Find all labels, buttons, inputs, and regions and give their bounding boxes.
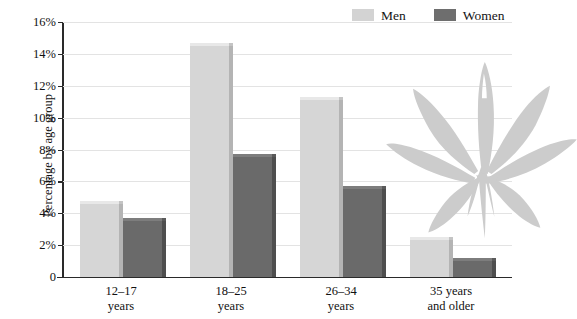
category-label-line: and older: [396, 299, 506, 314]
y-tick-label: 2%: [39, 238, 56, 253]
bar-women-3: [453, 261, 492, 277]
gridline: [63, 54, 512, 55]
y-tick-mark: [58, 245, 63, 246]
plot-area: 02%4%6%8%10%12%14%16%: [63, 22, 512, 277]
bar-men-2: [300, 100, 339, 277]
y-tick-label: 14%: [33, 46, 56, 61]
bar-men-1: [190, 46, 229, 277]
y-tick-mark: [58, 22, 63, 23]
bar-top: [410, 237, 449, 240]
bar-topside: [162, 218, 166, 221]
category-label-line: 35 years: [396, 284, 506, 299]
bar-top: [80, 201, 119, 204]
y-tick-mark: [58, 213, 63, 214]
category-label-line: years: [66, 299, 176, 314]
gridline: [63, 213, 512, 214]
y-tick-mark: [58, 86, 63, 87]
gridline: [63, 86, 512, 87]
bar-face: [410, 240, 449, 277]
bar-women-1: [233, 157, 272, 277]
category-label-line: 26–34: [286, 284, 396, 299]
bar-top: [190, 43, 229, 46]
category-label-line: years: [176, 299, 286, 314]
legend-label-men: Men: [381, 9, 406, 22]
bar-topside: [382, 186, 386, 189]
y-tick-label: 10%: [33, 110, 56, 125]
legend-item-women: Women: [434, 9, 505, 22]
bar-topside: [449, 237, 453, 240]
bar-face: [300, 100, 339, 277]
cannabis-leaf-icon: [385, 60, 577, 242]
y-tick-mark: [58, 181, 63, 182]
y-tick-label: 8%: [39, 142, 56, 157]
bar-face: [453, 261, 492, 277]
bar-top: [300, 97, 339, 100]
bar-topside: [272, 154, 276, 157]
legend-item-men: Men: [352, 9, 406, 22]
bar-face: [190, 46, 229, 277]
bar-face: [343, 189, 382, 277]
bar-topside: [119, 201, 123, 204]
bar-side: [272, 157, 276, 277]
category-label-line: 18–25: [176, 284, 286, 299]
bar-side: [382, 189, 386, 277]
y-tick-mark: [58, 118, 63, 119]
bar-topside: [229, 43, 233, 46]
gridline: [63, 181, 512, 182]
y-tick-label: 4%: [39, 206, 56, 221]
category-label-line: years: [286, 299, 396, 314]
bar-topside: [492, 258, 496, 261]
category-label-3: 35 yearsand older: [396, 284, 506, 314]
legend-swatch-women: [434, 9, 456, 21]
bar-top: [453, 258, 492, 261]
y-tick-mark: [58, 54, 63, 55]
y-tick-label: 16%: [33, 15, 56, 30]
y-tick-label: 0: [50, 270, 56, 285]
bar-topside: [339, 97, 343, 100]
bar-men-3: [410, 240, 449, 277]
bar-men-0: [80, 204, 119, 277]
y-tick-label: 6%: [39, 174, 56, 189]
bar-top: [343, 186, 382, 189]
y-tick-mark: [58, 277, 63, 278]
category-label-0: 12–17years: [66, 284, 176, 314]
gridline: [63, 22, 512, 23]
bar-face: [123, 221, 162, 277]
category-label-line: 12–17: [66, 284, 176, 299]
bar-women-2: [343, 189, 382, 277]
gridline: [63, 118, 512, 119]
legend-swatch-men: [352, 9, 374, 21]
legend-label-women: Women: [463, 9, 505, 22]
bar-women-0: [123, 221, 162, 277]
bar-top: [123, 218, 162, 221]
bar-face: [233, 157, 272, 277]
bar-side: [492, 261, 496, 277]
bar-top: [233, 154, 272, 157]
category-label-1: 18–25years: [176, 284, 286, 314]
bar-side: [162, 221, 166, 277]
y-tick-mark: [58, 150, 63, 151]
category-label-2: 26–34years: [286, 284, 396, 314]
bar-face: [80, 204, 119, 277]
y-tick-label: 12%: [33, 78, 56, 93]
gridline: [63, 150, 512, 151]
